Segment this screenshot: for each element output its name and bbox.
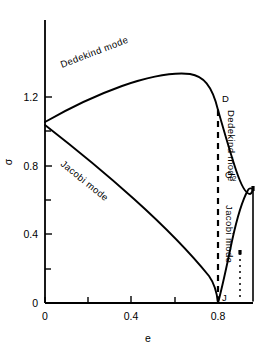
y-label-0p8: 0.8 bbox=[23, 160, 38, 172]
curve-dedekind-upper bbox=[45, 74, 218, 122]
label-dedekind-right: Dedekind mode bbox=[226, 110, 237, 182]
y-label-1p2: 1.2 bbox=[23, 91, 38, 103]
tick-labels-group: 1.2 0.8 0.4 0 0 0.4 0.8 bbox=[23, 91, 225, 322]
y-axis-title: σ bbox=[2, 158, 14, 165]
right-boundary-cap bbox=[251, 186, 254, 191]
curves-group bbox=[45, 74, 255, 303]
chart-figure: 1.2 0.8 0.4 0 0 0.4 0.8 e σ D J O2 Dedek… bbox=[0, 0, 266, 352]
x-label-0p8: 0.8 bbox=[211, 310, 226, 322]
label-point-D: D bbox=[222, 93, 229, 104]
label-jacobi-right: Jacobi mode bbox=[224, 205, 235, 263]
x-label-0: 0 bbox=[42, 310, 48, 322]
label-dedekind-upper: Dedekind mode bbox=[59, 34, 130, 70]
dotted-line-cap bbox=[238, 250, 241, 255]
x-label-0p4: 0.4 bbox=[124, 310, 139, 322]
y-label-0: 0 bbox=[32, 297, 38, 309]
curve-labels-group: Dedekind mode Dedekind mode Jacobi mode … bbox=[59, 34, 237, 263]
label-point-J: J bbox=[222, 292, 227, 303]
x-axis-title: e bbox=[145, 332, 151, 344]
curve-jacobi-left bbox=[45, 125, 218, 303]
y-label-0p4: 0.4 bbox=[23, 228, 38, 240]
label-jacobi-left: Jacobi mode bbox=[59, 158, 111, 203]
stability-diagram-svg: 1.2 0.8 0.4 0 0 0.4 0.8 e σ D J O2 Dedek… bbox=[0, 0, 266, 352]
